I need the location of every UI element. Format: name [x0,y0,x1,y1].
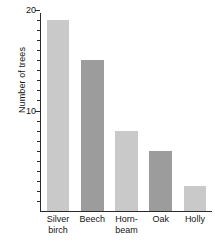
y-tick-minor [37,201,40,202]
x-axis-label-line: beam [109,225,143,236]
x-axis-label-beech: Beech [75,214,109,225]
x-axis-labels: SilverbirchBeechHorn-beamOakHolly [41,214,212,246]
x-axis-label-line: Oak [144,214,178,225]
y-tick-label: 10 [26,106,36,115]
y-tick-minor [37,131,40,132]
bar-oak [149,151,172,211]
y-tick-minor [37,40,40,41]
y-tick-minor [37,70,40,71]
x-axis-label-line: Silver [41,214,75,225]
x-axis-label-hornbeam: Horn-beam [109,214,143,236]
bar-chart: Number of trees 1020 SilverbirchBeechHor… [0,0,215,247]
y-tick-minor [37,151,40,152]
y-tick-minor [37,191,40,192]
y-tick-minor [37,50,40,51]
y-tick-minor [37,100,40,101]
y-tick-minor [37,80,40,81]
y-tick-minor [37,161,40,162]
y-tick-minor [37,30,40,31]
bar-hornbeam [115,131,138,211]
y-tick-minor [37,90,40,91]
y-tick-minor [37,141,40,142]
y-tick-minor [37,20,40,21]
x-axis-line [40,211,212,212]
x-axis-label-silver-birch: Silverbirch [41,214,75,236]
x-axis-label-line: Holly [178,214,212,225]
y-tick-label: 20 [26,6,36,15]
bar-series [41,10,212,211]
bar-holly [184,186,207,211]
y-tick-minor [37,181,40,182]
x-axis-label-line: birch [41,225,75,236]
bar-silver-birch [47,20,70,211]
x-axis-label-holly: Holly [178,214,212,225]
plot-area: 1020 [40,10,212,212]
y-tick-minor [37,121,40,122]
x-axis-label-line: Beech [75,214,109,225]
y-tick-minor [37,171,40,172]
x-axis-label-line: Horn- [109,214,143,225]
bar-beech [81,60,104,211]
y-tick-minor [37,60,40,61]
y-axis-title: Number of trees [17,20,27,140]
x-axis-label-oak: Oak [144,214,178,225]
